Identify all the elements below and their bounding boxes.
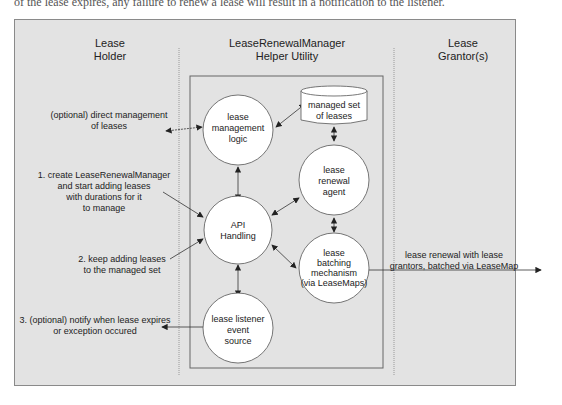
svg-text:logic: logic [229,134,248,144]
svg-text:to manage: to manage [83,203,126,213]
column-header-lease-holder: Lease Holder [94,37,127,62]
column-header-helper-utility: LeaseRenewalManager Helper Utility [229,37,346,62]
node-managed-set-of-leases: managed set of leases [301,86,367,124]
svg-text:LeaseRenewalManager: LeaseRenewalManager [229,37,346,49]
column-header-lease-grantors: Lease Grantor(s) [438,37,488,62]
svg-text:managed set: managed set [308,100,361,110]
svg-text:Grantor(s): Grantor(s) [438,50,488,62]
svg-text:Lease: Lease [95,37,125,49]
node-lease-batching-mechanism: lease batching mechanism (via LeaseMaps) [299,233,369,303]
label-step3-notify: 3. (optional) notify when lease expires … [19,315,171,336]
svg-text:Lease: Lease [448,37,478,49]
svg-text:management: management [212,123,265,133]
label-step1-create-manager: 1. create LeaseRenewalManager and start … [38,170,171,213]
svg-text:and start adding leases: and start adding leases [57,181,151,191]
svg-text:(via LeaseMaps): (via LeaseMaps) [301,278,368,288]
svg-text:with durations for it: with durations for it [65,192,142,202]
svg-text:source: source [224,336,251,346]
svg-text:Holder: Holder [94,50,127,62]
svg-text:API: API [231,220,246,230]
label-direct-management: (optional) direct management of leases [50,110,168,131]
node-lease-renewal-agent: lease renewal agent [299,145,369,215]
connector-direct-mgmt [166,127,202,131]
connector-api-agent [272,198,299,215]
svg-text:lease: lease [323,165,345,175]
svg-text:Handling: Handling [220,231,256,241]
svg-text:renewal: renewal [318,176,350,186]
svg-text:3. (optional) notify when leas: 3. (optional) notify when lease expires [19,315,171,325]
label-step2-keep-adding: 2. keep adding leases to the managed set [78,254,166,275]
svg-text:Helper Utility: Helper Utility [256,50,319,62]
svg-text:event: event [227,325,250,335]
svg-text:of leases: of leases [316,111,353,121]
svg-text:mechanism: mechanism [311,268,357,278]
label-lease-renewal-grantors: lease renewal with lease grantors, batch… [390,250,519,271]
svg-text:lease: lease [323,248,345,258]
connector-step1 [163,192,203,217]
lease-renewal-diagram: Lease Holder LeaseRenewalManager Helper … [0,0,562,405]
svg-text:lease listener: lease listener [211,314,264,324]
svg-text:(optional) direct management: (optional) direct management [50,110,168,120]
svg-text:grantors, batched via LeaseMap: grantors, batched via LeaseMap [390,261,519,271]
svg-text:agent: agent [323,187,346,197]
svg-text:lease: lease [227,112,249,122]
svg-text:of leases: of leases [91,121,128,131]
svg-text:batching: batching [317,258,351,268]
node-api-handling: API Handling [204,196,272,264]
node-lease-management-logic: lease management logic [203,95,273,165]
svg-text:lease renewal with lease: lease renewal with lease [405,250,503,260]
svg-text:1. create LeaseRenewalManager: 1. create LeaseRenewalManager [38,170,171,180]
svg-text:or exception occured: or exception occured [53,326,137,336]
node-lease-listener-event-source: lease listener event source [203,293,273,363]
connector-step2 [170,239,203,259]
svg-text:to the managed set: to the managed set [83,265,161,275]
svg-text:2. keep adding leases: 2. keep adding leases [78,254,166,264]
connector-api-batch [272,245,296,268]
